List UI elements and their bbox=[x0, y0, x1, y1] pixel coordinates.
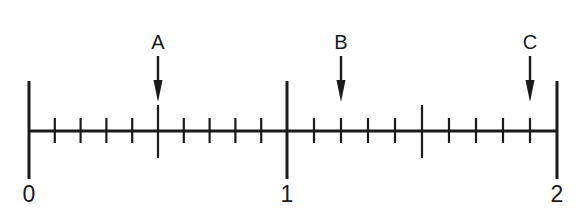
point-marker-c: C bbox=[523, 31, 537, 102]
arrow-down-icon bbox=[337, 80, 346, 102]
point-label-a: A bbox=[151, 31, 165, 53]
number-line-svg: 0 1 2 A B C bbox=[0, 0, 577, 215]
point-marker-b: B bbox=[334, 31, 347, 102]
axis-label-0: 0 bbox=[23, 181, 36, 207]
axis-label-2: 2 bbox=[551, 181, 564, 207]
point-marker-a: A bbox=[151, 31, 165, 102]
point-label-c: C bbox=[523, 31, 537, 53]
point-label-b: B bbox=[334, 31, 347, 53]
arrow-down-icon bbox=[526, 80, 535, 102]
arrow-down-icon bbox=[154, 80, 163, 102]
point-markers: A B C bbox=[151, 31, 537, 102]
major-tick-labels: 0 1 2 bbox=[23, 181, 564, 207]
axis-label-1: 1 bbox=[281, 181, 294, 207]
number-line-figure: 0 1 2 A B C bbox=[0, 0, 577, 215]
